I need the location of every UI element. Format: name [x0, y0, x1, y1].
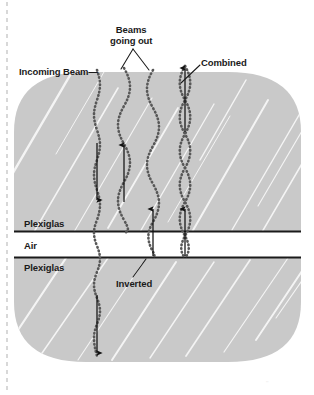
label-beams-going-out-line2: going out — [110, 35, 152, 46]
label-incoming-beam: Incoming Beam— — [19, 66, 98, 77]
layer-air-gap — [0, 231, 314, 258]
figure-wave-interference-diagram: Incoming Beam— Beams going out Combined … — [0, 0, 314, 395]
label-combined: Combined — [201, 57, 247, 68]
leader-beams-out-right — [133, 49, 149, 70]
diagram-canvas — [0, 0, 314, 395]
label-plexiglas-top: Plexiglas — [24, 218, 64, 229]
label-beams-going-out-line1: Beams — [116, 24, 147, 35]
label-plexiglas-bottom: Plexiglas — [24, 262, 64, 273]
material-slab-group — [0, 0, 314, 370]
label-air: Air — [24, 240, 37, 251]
label-beams-going-out: Beams going out — [110, 24, 152, 46]
leader-beams-out-left — [121, 49, 133, 69]
corner-mark: '' — [266, 380, 268, 386]
label-inverted: Inverted — [116, 278, 152, 289]
